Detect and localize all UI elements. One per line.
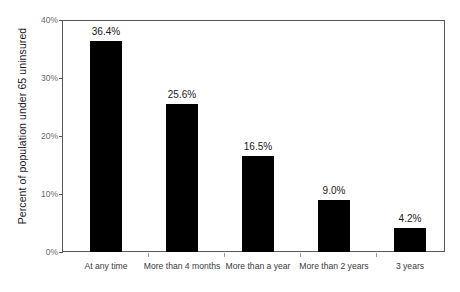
y-tick-label-10: 10% xyxy=(36,190,58,199)
bar-value-more-than-4-months: 25.6% xyxy=(152,89,212,101)
y-tick-label-20: 20% xyxy=(36,132,58,141)
bar-3-years xyxy=(394,228,426,252)
y-tick-label-40: 40% xyxy=(36,16,58,25)
x-tick-mark-4 xyxy=(376,253,377,257)
bar-value-3-years: 4.2% xyxy=(380,213,440,225)
x-tick-mark-2 xyxy=(224,253,225,257)
bar-more-than-4-months xyxy=(166,104,198,252)
bar-value-more-than-2-years: 9.0% xyxy=(304,185,364,197)
bar-value-at-any-time: 36.4% xyxy=(76,26,136,38)
y-axis-title: Percent of population under 65 uninsured xyxy=(14,0,30,252)
y-tick-label-0: 0% xyxy=(36,248,58,257)
bar-chart-figure: Percent of population under 65 uninsured… xyxy=(0,0,460,292)
bar-more-than-a-year xyxy=(242,156,274,252)
bar-more-than-2-years xyxy=(318,200,350,252)
y-tick-mark-0 xyxy=(59,252,63,253)
bar-at-any-time xyxy=(90,41,122,252)
x-category-label-3-years: 3 years xyxy=(375,261,445,272)
x-tick-mark-1 xyxy=(148,253,149,257)
x-tick-mark-3 xyxy=(300,253,301,257)
bar-value-more-than-a-year: 16.5% xyxy=(228,141,288,153)
x-category-label-more-than-2-years: More than 2 years xyxy=(286,261,382,272)
y-tick-label-30: 30% xyxy=(36,74,58,83)
